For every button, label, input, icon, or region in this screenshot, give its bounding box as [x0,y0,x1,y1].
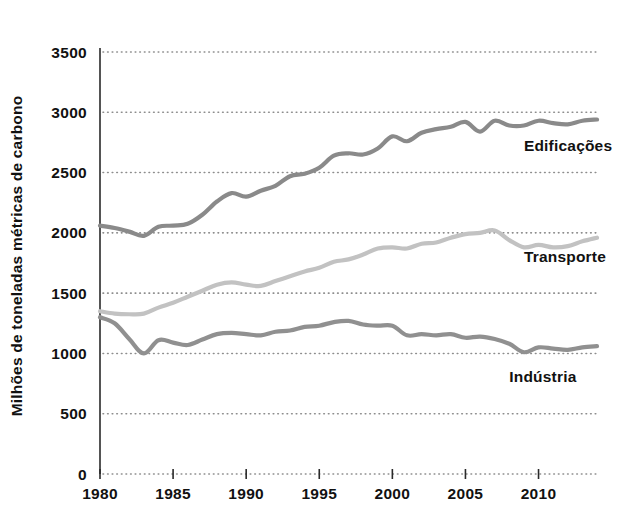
y-tick-label-500: 500 [60,405,87,422]
carbon-emissions-line-chart: Milhões de toneladas métricas de carbono… [0,0,618,512]
y-tick-label-3000: 3000 [51,104,87,121]
x-tick-label-1995: 1995 [301,485,337,502]
x-tick-label-1990: 1990 [228,485,264,502]
series-label-ind-stria: Indústria [509,368,576,385]
plot-area: 0500100015002000250030003500 19801985199… [0,0,618,512]
x-tick-label-2005: 2005 [448,485,484,502]
series-line-ind-stria [100,317,597,353]
series-line-edifica-es [100,120,597,236]
y-tick-label-2500: 2500 [51,164,87,181]
y-tick-label-2000: 2000 [51,224,87,241]
y-tick-label-1500: 1500 [51,285,87,302]
y-axis-ticks: 0500100015002000250030003500 [51,44,87,483]
x-tick-label-1980: 1980 [82,485,118,502]
series-line-transporte [100,230,597,314]
y-tick-label-3500: 3500 [51,44,87,61]
y-tick-label-1000: 1000 [51,345,87,362]
series-label-transporte: Transporte [524,248,606,265]
data-series [100,120,597,354]
gridlines [103,52,597,474]
x-tick-label-1985: 1985 [155,485,191,502]
y-tick-label-0: 0 [78,466,87,483]
x-tick-label-2010: 2010 [521,485,557,502]
series-label-edifica-es: Edificações [524,137,612,154]
x-tick-label-2000: 2000 [375,485,411,502]
x-axis-ticks: 1980198519901995200020052010 [82,485,556,502]
